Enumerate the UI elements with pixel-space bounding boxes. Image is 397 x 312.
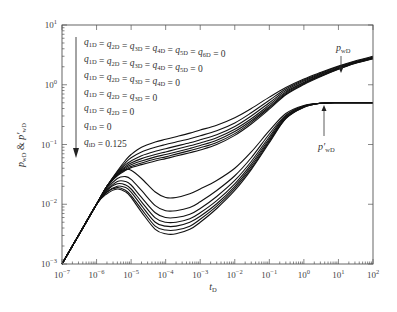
- y-axis-label: pwD & p′wD: [15, 123, 27, 168]
- legend-entry: q1D = q2D = q3D = q4D = 0: [84, 70, 180, 88]
- x-tick-label: 10−2: [227, 268, 243, 280]
- svg-text:pwD: pwD: [335, 42, 351, 54]
- legend-arrow-head: [73, 148, 79, 158]
- legend-entry: q1D = 0: [84, 120, 112, 132]
- svg-text:p′wD: p′wD: [317, 141, 335, 153]
- pwd-curve-1: [62, 56, 373, 264]
- y-tick-label: 101: [45, 18, 57, 30]
- legend-entry: qiD = 0.125: [84, 137, 127, 149]
- x-tick-label: 10−1: [261, 268, 277, 280]
- chart: 10−710−610−510−410−310−210−1100101102 10…: [0, 0, 397, 312]
- curves-group: [62, 56, 373, 264]
- annotation-pwd-derivative: p′wD: [317, 105, 335, 153]
- svg-text:tD: tD: [209, 281, 217, 293]
- x-tick-label: 100: [298, 268, 310, 280]
- legend-entry: q1D = q2D = q3D = 0: [84, 87, 157, 103]
- y-tick-label: 100: [45, 78, 57, 90]
- legend-entry: q1D = q2D = q3D = q4D = q5D = 0: [84, 54, 203, 74]
- x-tick-label: 102: [367, 268, 379, 280]
- y-tick-label: 10−2: [41, 197, 57, 209]
- legend: q1D = q2D = q3D = q4D = q5D = q6D = 0q1D…: [73, 37, 226, 158]
- legend-entry: q1D = q2D = 0: [84, 103, 135, 117]
- svg-text:pwD & p′wD: pwD & p′wD: [15, 123, 27, 168]
- x-tick-label: 10−4: [158, 268, 175, 280]
- x-tick-label: 10−6: [89, 268, 106, 280]
- x-tick-label: 10−7: [54, 268, 71, 280]
- x-axis-label: tD: [209, 281, 217, 293]
- y-tick-label: 10−1: [41, 138, 57, 150]
- y-tick-label: 10−3: [41, 257, 57, 269]
- x-tick-label: 10−5: [123, 268, 139, 280]
- x-tick-label: 10−3: [192, 268, 208, 280]
- x-tick-label: 101: [332, 268, 344, 280]
